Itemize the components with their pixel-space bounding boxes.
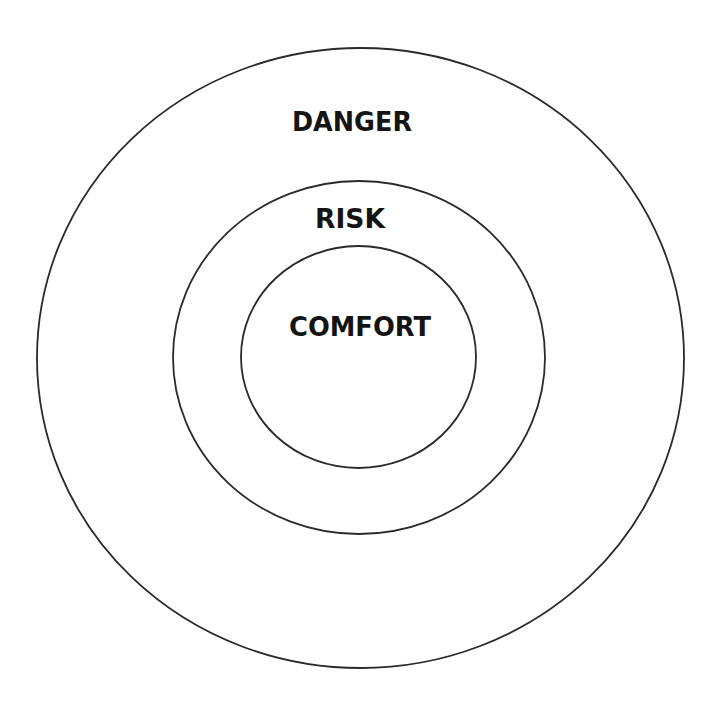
comfort-zone-ring <box>241 246 476 468</box>
danger-zone-ring <box>37 48 684 668</box>
danger-label: DANGER <box>292 106 412 137</box>
risk-label: RISK <box>315 203 386 234</box>
zones-diagram: DANGER RISK COMFORT <box>0 0 717 706</box>
comfort-label: COMFORT <box>289 311 432 342</box>
